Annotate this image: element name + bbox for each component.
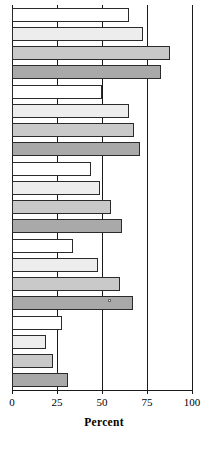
bar-g2-s1 [12,85,102,99]
gridline-75 [147,5,148,390]
x-axis-title: Percent [0,416,208,428]
bar-g3-s4 [12,219,122,233]
tick-mark-75 [147,390,148,394]
tick-mark-0 [12,390,13,394]
gridline-100 [192,5,193,390]
tick-label-50: 50 [87,396,117,409]
bar-g3-s3 [12,200,111,214]
bar-g1-s2 [12,27,143,41]
tick-label-0: 0 [0,396,27,409]
bar-g3-s2 [12,181,100,195]
bar-g4-s1 [12,239,73,253]
bar-g4-s2 [12,258,98,272]
bar-g2-s3 [12,123,134,137]
bar-g4-s4 [12,296,133,310]
bar-chart: 0255075100 Percent [0,0,208,451]
bar-g5-s2 [12,335,46,349]
bar-g2-s2 [12,104,129,118]
bar-g3-s1 [12,162,91,176]
gridline-25 [57,5,58,390]
gridline-50 [102,5,103,390]
bar-g5-s3 [12,354,53,368]
bar-g1-s3 [12,46,170,60]
bar-g5-s4 [12,373,68,387]
tick-mark-50 [102,390,103,394]
gridline-0 [12,5,13,390]
tick-label-100: 100 [177,396,207,409]
bar-g1-s4 [12,65,161,79]
bar-g5-s1 [12,316,62,330]
tick-label-25: 25 [42,396,72,409]
tick-mark-100 [192,390,193,394]
bar-speck-artifact [108,299,111,302]
bar-g2-s4 [12,142,140,156]
tick-mark-25 [57,390,58,394]
bar-g1-s1 [12,8,129,22]
bar-g4-s3 [12,277,120,291]
tick-label-75: 75 [132,396,162,409]
plot-area [12,5,192,390]
